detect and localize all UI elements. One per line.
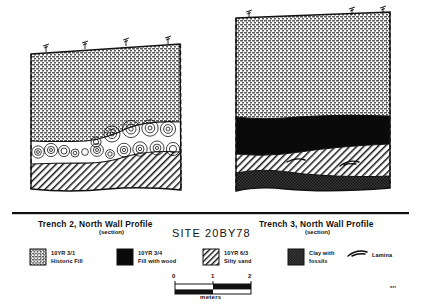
legend-item-4-code: Lamina xyxy=(372,252,392,259)
legend-item-2-label: Silty sand xyxy=(224,258,251,265)
trench-3-title: Trench 3, North Wall Profile xyxy=(259,219,374,229)
trench-2-profile xyxy=(28,36,186,196)
trench-3-profile xyxy=(236,6,390,191)
archaeological-profile-figure: Trench 2, North Wall Profile (section) S… xyxy=(0,0,421,304)
trench-2-subtitle: (section) xyxy=(99,229,124,235)
site-title: SITE 20BY78 xyxy=(172,227,251,239)
legend-item-1-code: 10YR 3/4 xyxy=(138,250,162,257)
legend-item-0-code: 10YR 3/1 xyxy=(51,250,75,257)
legend-item-2-code: 10YR 6/3 xyxy=(224,250,248,257)
trench-2-title: Trench 2, North Wall Profile xyxy=(38,219,153,229)
trench-3-subtitle: (section) xyxy=(305,229,330,235)
scale-tick-2: 2 xyxy=(248,273,251,279)
legend-item-1-label: Fill with wood xyxy=(138,258,176,265)
scale-tick-0: 0 xyxy=(172,273,175,279)
legend-item-3-code: Clay with xyxy=(309,250,334,257)
corner-mark: art xyxy=(390,284,396,289)
legend-item-0-label: Historic Fill xyxy=(51,258,83,265)
scale-tick-1: 1 xyxy=(211,273,214,279)
legend-item-3-label: fossils xyxy=(309,258,327,265)
scale-bar xyxy=(175,281,251,294)
header-divider xyxy=(12,212,409,214)
scale-units-label: meters xyxy=(200,294,221,300)
